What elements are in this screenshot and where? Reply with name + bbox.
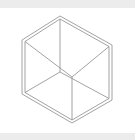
bottom-strip — [0, 133, 135, 140]
edge-front-upper-right — [72, 47, 109, 78]
edge-back-lower-right — [60, 72, 109, 99]
cube-diagram — [0, 0, 135, 140]
outer-outline — [22, 16, 112, 123]
outer-outline-inner — [25, 19, 109, 120]
edge-back-lower-left — [25, 72, 60, 93]
edge-front-upper-left — [25, 42, 72, 78]
